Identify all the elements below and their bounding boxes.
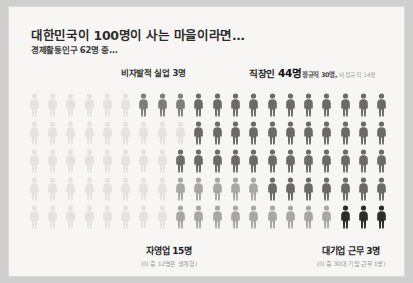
person-icon-self-employed [212, 177, 223, 201]
person-icon-salaried [230, 121, 241, 145]
person-icon-inactive [138, 177, 149, 201]
label-big-corp-note: (이 중 30대 기업 근무 1명) [297, 259, 405, 268]
person-icon-self-employed [212, 205, 223, 229]
person-icon-salaried [230, 149, 241, 173]
person-icon-inactive [65, 205, 76, 229]
person-icon-salaried [376, 149, 387, 173]
person-icon-inactive [102, 149, 113, 173]
person-icon-inactive [65, 149, 76, 173]
person-icon-inactive [157, 205, 168, 229]
person-icon-salaried [193, 121, 204, 145]
person-icon-self-employed [303, 205, 314, 229]
person-icon-salaried [340, 149, 351, 173]
person-icon-inactive [157, 121, 168, 145]
person-icon-inactive [65, 121, 76, 145]
person-icon-salaried [340, 93, 351, 117]
person-icon-self-employed [230, 205, 241, 229]
person-icon-inactive [65, 93, 76, 117]
person-icon-salaried [376, 121, 387, 145]
person-icon-salaried [358, 93, 369, 117]
person-icon-salaried [358, 121, 369, 145]
person-icon-salaried [321, 121, 332, 145]
person-icon-inactive [47, 93, 58, 117]
person-icon-inactive [84, 121, 95, 145]
person-icon-salaried [285, 121, 296, 145]
person-icon-inactive [120, 177, 131, 201]
person-icon-unemployed [175, 93, 186, 117]
person-icon-inactive [47, 149, 58, 173]
person-icon-inactive [102, 177, 113, 201]
person-icon-salaried [303, 93, 314, 117]
person-icon-inactive [175, 121, 186, 145]
person-icon-inactive [29, 177, 40, 201]
label-salaried-prefix: 직장인 [249, 68, 278, 79]
person-icon-inactive [157, 177, 168, 201]
page-subtitle: 경제활동인구 62명 중… [31, 43, 117, 55]
person-icon-salaried [267, 177, 278, 201]
person-icon-salaried [340, 121, 351, 145]
label-salaried-worker: 직장인 44명정규직 30명, 비정규직 14명 [249, 65, 376, 80]
person-icon-inactive [120, 121, 131, 145]
person-icon-big-corp [376, 205, 387, 229]
person-icon-inactive [120, 205, 131, 229]
person-icon-inactive [138, 121, 149, 145]
label-self-employed-note: (이 중 12명은 생계형) [49, 259, 289, 268]
person-icon-self-employed [248, 177, 259, 201]
label-regular-count: 정규직 30명, [302, 71, 337, 79]
label-big-corp: 대기업 근무 3명 (이 중 30대 기업 근무 1명) [297, 239, 405, 268]
person-icon-salaried [175, 149, 186, 173]
person-icon-inactive [29, 93, 40, 117]
person-icon-salaried [248, 93, 259, 117]
person-icon-inactive [65, 177, 76, 201]
person-icon-salaried [267, 149, 278, 173]
person-icon-salaried [285, 177, 296, 201]
person-icon-inactive [84, 177, 95, 201]
person-icon-inactive [120, 149, 131, 173]
person-icon-inactive [84, 93, 95, 117]
person-icon-inactive [138, 205, 149, 229]
person-icon-unemployed [157, 93, 168, 117]
person-icon-self-employed [248, 205, 259, 229]
person-icon-self-employed [175, 205, 186, 229]
label-salaried-count: 44명 [278, 67, 302, 79]
person-icon-inactive [157, 149, 168, 173]
person-icon-inactive [102, 205, 113, 229]
person-icon-salaried [230, 93, 241, 117]
page-title: 대한민국이 100명이 사는 마을이라면… [31, 25, 244, 44]
person-icon-salaried [376, 93, 387, 117]
person-icon-self-employed [230, 177, 241, 201]
person-icon-self-employed [285, 205, 296, 229]
label-self-employed: 자영업 15명 (이 중 12명은 생계형) [49, 239, 289, 268]
person-icon-inactive [29, 205, 40, 229]
person-icon-salaried [212, 121, 223, 145]
label-irregular-count: 비정규직 14명 [337, 71, 376, 78]
person-icon-salaried [212, 93, 223, 117]
person-icon-inactive [84, 149, 95, 173]
person-icon-self-employed [175, 177, 186, 201]
person-icon-big-corp [340, 205, 351, 229]
person-icon-self-employed [193, 205, 204, 229]
person-icon-big-corp [358, 205, 369, 229]
person-icon-salaried [248, 149, 259, 173]
person-icon-salaried [212, 149, 223, 173]
person-icon-self-employed [267, 205, 278, 229]
person-icon-self-employed [193, 177, 204, 201]
label-self-employed-text: 자영업 15명 [146, 246, 192, 256]
person-icon-salaried [321, 93, 332, 117]
person-icon-inactive [47, 121, 58, 145]
person-icon-salaried [285, 93, 296, 117]
infographic-card: 대한민국이 100명이 사는 마을이라면… 경제활동인구 62명 중… 비자발적… [8, 6, 405, 277]
person-icon-inactive [84, 205, 95, 229]
person-icon-salaried [303, 177, 314, 201]
person-icon-inactive [102, 93, 113, 117]
person-icon-salaried [358, 177, 369, 201]
person-icon-inactive [47, 205, 58, 229]
person-icon-unemployed [138, 93, 149, 117]
person-icon-inactive [120, 93, 131, 117]
label-involuntary-unemployed: 비자발적 실업 3명 [121, 66, 186, 78]
person-icon-salaried [376, 177, 387, 201]
person-icon-salaried [340, 177, 351, 201]
person-icon-salaried [193, 93, 204, 117]
person-icon-inactive [47, 177, 58, 201]
person-icon-salaried [358, 149, 369, 173]
